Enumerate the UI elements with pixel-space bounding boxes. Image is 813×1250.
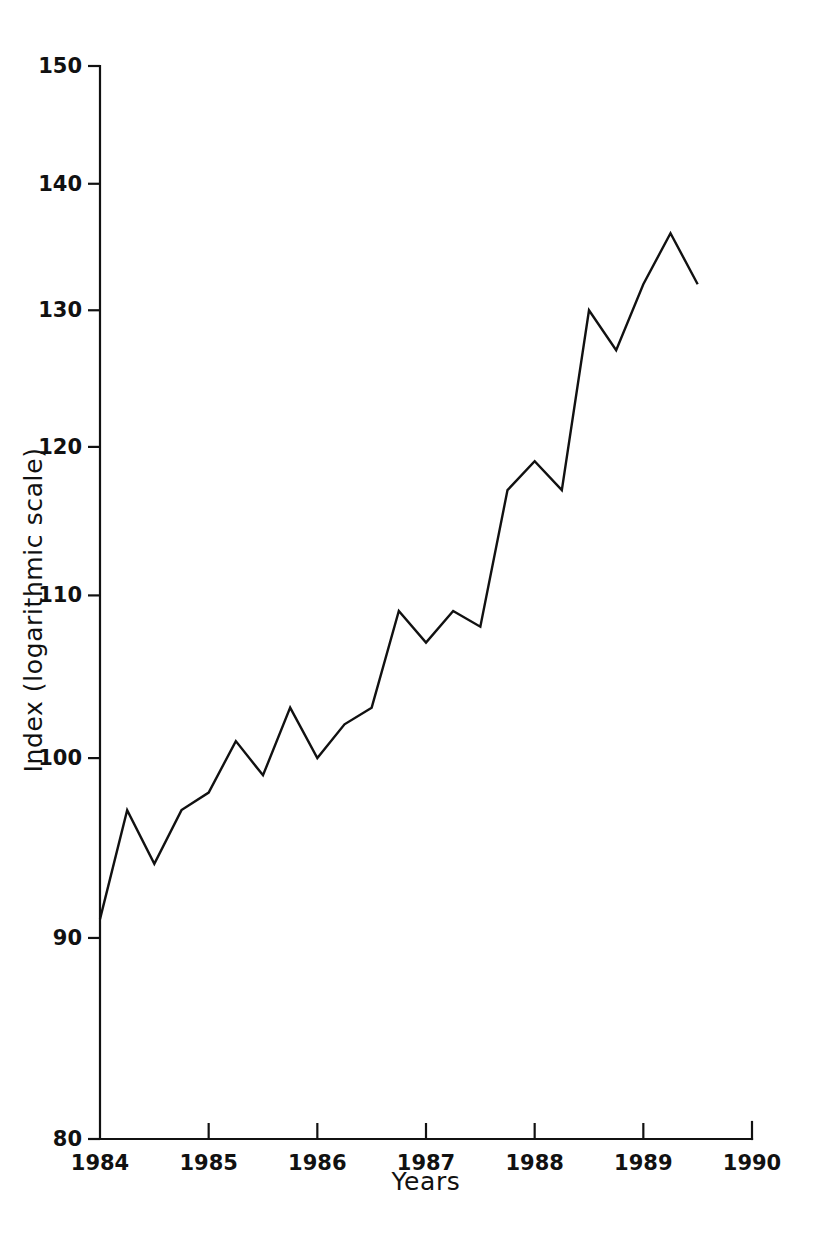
x-tick-label: 1984 (71, 1151, 129, 1175)
y-axis-title: Index (logarithmic scale) (19, 448, 48, 773)
x-tick-label: 1989 (614, 1151, 672, 1175)
x-tick-label: 1990 (723, 1151, 781, 1175)
x-tick-label: 1985 (179, 1151, 237, 1175)
y-axis-ticks (88, 66, 100, 1139)
y-tick-label: 140 (38, 172, 82, 196)
y-tick-label: 90 (53, 926, 82, 950)
x-axis-ticks (209, 1123, 644, 1139)
y-tick-label: 130 (38, 298, 82, 322)
y-tick-label: 80 (53, 1127, 82, 1151)
line-chart: 1501401301201101009080 19841985198619871… (0, 0, 813, 1250)
y-tick-label: 150 (38, 54, 82, 78)
x-axis-title: Years (391, 1167, 461, 1196)
data-series-line (100, 233, 698, 919)
chart-container: 1501401301201101009080 19841985198619871… (0, 0, 813, 1250)
x-tick-label: 1986 (288, 1151, 346, 1175)
x-tick-label: 1988 (505, 1151, 563, 1175)
